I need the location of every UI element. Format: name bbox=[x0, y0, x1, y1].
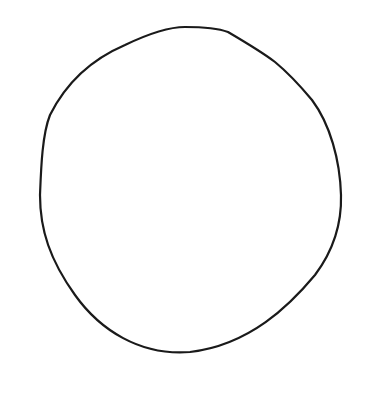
drawing-canvas bbox=[0, 0, 376, 395]
circle-outline bbox=[0, 0, 376, 395]
circle-stroke bbox=[40, 27, 341, 352]
